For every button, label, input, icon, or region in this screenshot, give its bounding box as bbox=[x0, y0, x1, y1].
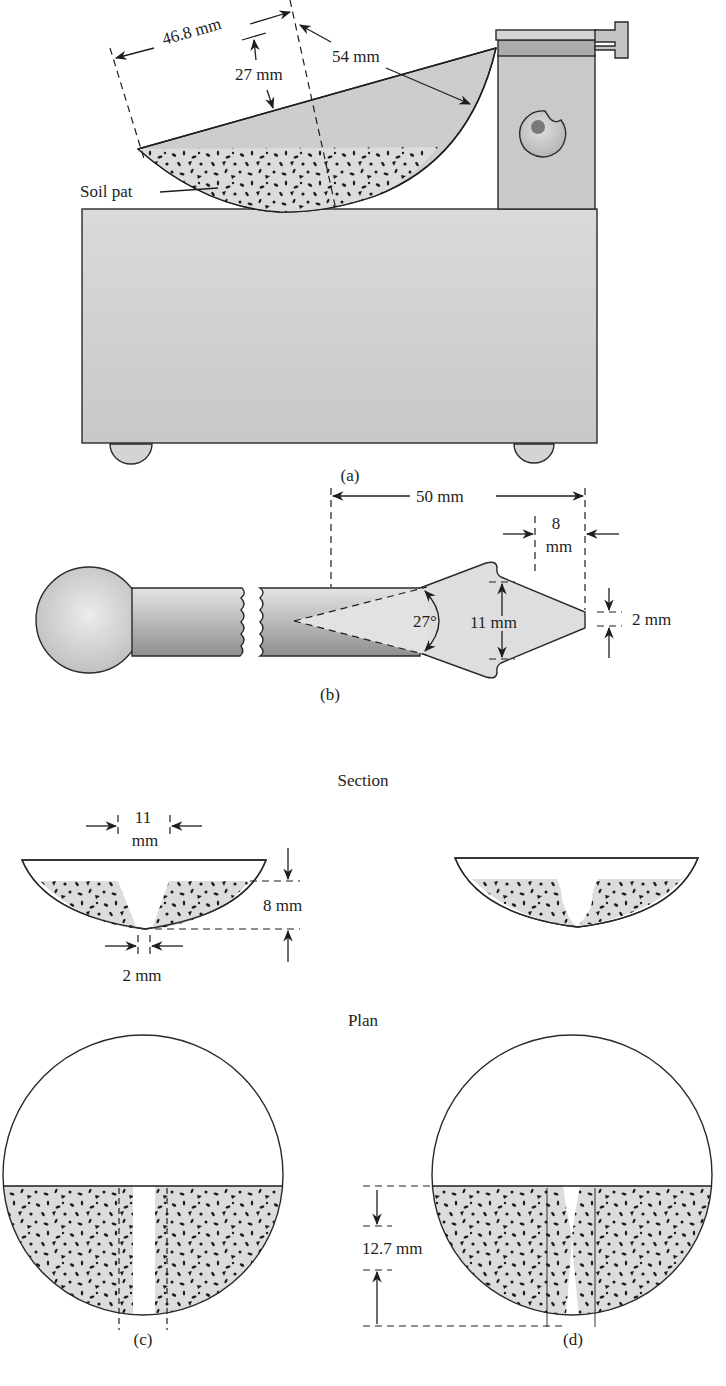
adjustment-screw bbox=[595, 22, 628, 58]
depth-8-label: 8 mm bbox=[263, 896, 302, 915]
plan-d: 12.7 mm (d) bbox=[362, 1035, 720, 1349]
top-width-num: 11 bbox=[135, 808, 151, 827]
tip-width-label: 2 mm bbox=[632, 610, 671, 629]
hanger-top bbox=[496, 30, 596, 40]
caption-c: (c) bbox=[134, 1330, 153, 1349]
section-c: 11 mm 8 mm 2 mm bbox=[22, 808, 302, 985]
top-width-unit: mm bbox=[132, 831, 158, 850]
angle-label: 27° bbox=[413, 612, 437, 631]
tip-length-num: 8 bbox=[552, 514, 561, 533]
plan-heading: Plan bbox=[348, 1011, 379, 1030]
panel-b: 27° 11 mm 50 mm 8 mm 2 mm (b) bbox=[36, 487, 671, 704]
chord-label: 46.8 mm bbox=[160, 14, 223, 49]
depth-label: 27 mm bbox=[235, 65, 283, 84]
soil-section-d-left bbox=[472, 879, 575, 926]
length-label: 50 mm bbox=[416, 487, 464, 506]
caption-a: (a) bbox=[341, 466, 360, 485]
closure-label: 12.7 mm bbox=[362, 1239, 422, 1258]
soil-pat bbox=[138, 147, 438, 212]
section-heading: Section bbox=[338, 771, 389, 790]
soil-section-right bbox=[152, 881, 250, 929]
panel-a: 46.8 mm 27 mm 54 mm Soil pat (a) bbox=[80, 0, 628, 485]
caption-d: (d) bbox=[563, 1330, 583, 1349]
cam-axle bbox=[531, 120, 545, 134]
section-d bbox=[455, 858, 698, 927]
foot-right bbox=[514, 444, 554, 463]
caption-b: (b) bbox=[320, 685, 340, 704]
liquid-limit-figure: 46.8 mm 27 mm 54 mm Soil pat (a) 27° 11 … bbox=[0, 0, 726, 1386]
plan-c: (c) bbox=[0, 1035, 290, 1349]
tool-handle-ball bbox=[36, 567, 142, 673]
cup-hanger bbox=[498, 40, 595, 56]
tip-length-unit: mm bbox=[546, 537, 572, 556]
tool-rod-left bbox=[132, 588, 244, 656]
width-label: 11 mm bbox=[470, 613, 517, 632]
radius-label: 54 mm bbox=[332, 47, 380, 66]
foot-left bbox=[110, 444, 152, 464]
bottom-width-label: 2 mm bbox=[122, 966, 161, 985]
soil-pat-label: Soil pat bbox=[80, 182, 133, 201]
device-base bbox=[82, 209, 597, 443]
